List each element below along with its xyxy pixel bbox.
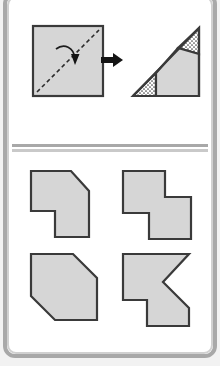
option-c[interactable] [25, 248, 105, 330]
option-b-shape [123, 171, 191, 239]
right-arrow-icon [101, 53, 123, 67]
panel-divider [12, 144, 208, 152]
source-square-figure[interactable] [30, 23, 110, 105]
divider-line-bottom [12, 149, 208, 152]
fold-prompt-panel [11, 0, 209, 145]
option-a-shape [31, 171, 89, 237]
option-d-shape [123, 254, 189, 326]
result-triangle-figure[interactable] [125, 22, 207, 106]
option-d[interactable] [117, 248, 199, 336]
option-a[interactable] [25, 165, 101, 247]
figure-root [0, 0, 220, 366]
option-b[interactable] [117, 165, 201, 247]
answer-options-panel [11, 153, 209, 341]
option-c-shape [31, 254, 97, 320]
triangle-body [156, 48, 199, 96]
transform-arrow [99, 51, 125, 69]
